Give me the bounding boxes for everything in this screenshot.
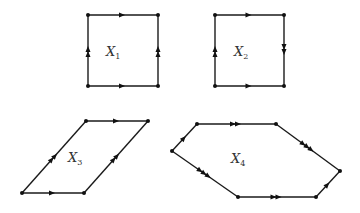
arrowhead-icon bbox=[119, 13, 125, 18]
vertex-dot bbox=[213, 13, 217, 17]
polygon-diagram: X1 X2 X3 X4 bbox=[0, 0, 360, 213]
figure-x1-square: X1 bbox=[86, 13, 161, 89]
vertex-dot bbox=[236, 195, 240, 199]
figure-x3-parallelogram: X3 bbox=[20, 119, 150, 196]
arrowhead-icon bbox=[276, 195, 282, 200]
vertex-dot bbox=[338, 169, 342, 173]
vertex-dot bbox=[274, 122, 278, 126]
arrowhead-icon bbox=[86, 46, 91, 52]
vertex-dot bbox=[282, 13, 286, 17]
arrowhead-icon bbox=[49, 191, 55, 196]
arrowhead-icon bbox=[196, 167, 202, 172]
arrowhead-icon bbox=[235, 122, 241, 127]
label-x1: X1 bbox=[105, 44, 120, 61]
vertex-dot bbox=[86, 84, 90, 88]
arrowhead-icon bbox=[113, 119, 119, 124]
arrowhead-icon bbox=[282, 49, 287, 55]
arrowhead-icon bbox=[156, 46, 161, 52]
vertex-dot bbox=[314, 195, 318, 199]
label-x2: X2 bbox=[233, 44, 248, 61]
label-x4: X4 bbox=[230, 151, 245, 168]
vertex-dot bbox=[156, 13, 160, 17]
figure-x4-hexagon: X4 bbox=[170, 122, 342, 200]
vertex-dot bbox=[170, 149, 174, 153]
vertex-dot bbox=[156, 84, 160, 88]
vertex-dot bbox=[84, 119, 88, 123]
arrowhead-icon bbox=[246, 13, 252, 18]
arrowhead-icon bbox=[119, 84, 125, 89]
vertex-dot bbox=[213, 84, 217, 88]
figure-x2-square: X2 bbox=[213, 13, 287, 89]
vertex-dot bbox=[282, 84, 286, 88]
vertex-dot bbox=[195, 122, 199, 126]
vertex-dot bbox=[82, 191, 86, 195]
vertex-dot bbox=[20, 191, 24, 195]
vertex-dot bbox=[146, 119, 150, 123]
arrowhead-icon bbox=[246, 84, 252, 89]
vertex-dot bbox=[86, 13, 90, 17]
arrowhead-icon bbox=[213, 46, 218, 52]
label-x3: X3 bbox=[67, 150, 82, 167]
